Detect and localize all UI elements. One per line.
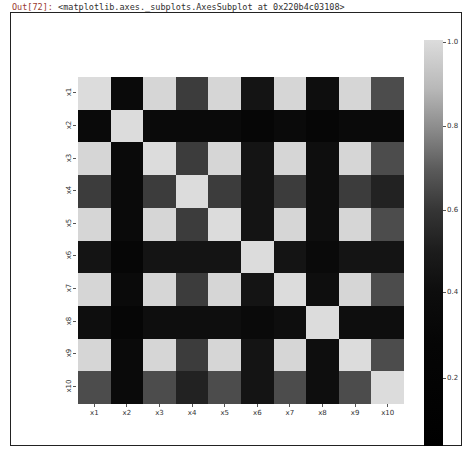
- x-tick-text: x4: [188, 409, 197, 417]
- heatmap-cell: [208, 371, 241, 404]
- y-tick-text: x9: [65, 344, 73, 362]
- heatmap-cell: [339, 371, 372, 404]
- heatmap-cell: [111, 110, 144, 143]
- x-tick-mark: [126, 404, 127, 407]
- heatmap-cell: [78, 110, 111, 143]
- heatmap-cell: [274, 175, 307, 208]
- output-prompt: Out[72]: <matplotlib.axes._subplots.Axes…: [12, 2, 345, 12]
- x-tick-mark: [94, 404, 95, 407]
- heatmap-cell: [208, 175, 241, 208]
- heatmap-cell: [143, 371, 176, 404]
- heatmap-cell: [241, 339, 274, 372]
- heatmap-cell: [78, 371, 111, 404]
- x-tick-label: x7: [274, 404, 306, 417]
- heatmap-cell: [78, 273, 111, 306]
- x-tick-label: x4: [176, 404, 208, 417]
- y-tick-text: x1: [65, 83, 73, 101]
- y-tick-label: x7: [60, 284, 78, 294]
- x-tick-mark: [322, 404, 323, 407]
- heatmap-cell: [176, 306, 209, 339]
- heatmap-cell: [208, 208, 241, 241]
- colorbar-tick-label: 0.6: [443, 206, 458, 214]
- x-tick-text: x6: [253, 409, 262, 417]
- heatmap-cell: [241, 175, 274, 208]
- y-tick-text: x5: [65, 214, 73, 232]
- y-tick-mark: [73, 288, 76, 289]
- heatmap-cell: [274, 208, 307, 241]
- heatmap-cell: [78, 175, 111, 208]
- y-tick-label: x6: [60, 251, 78, 261]
- x-tick-label: x5: [209, 404, 241, 417]
- heatmap-cell: [371, 208, 404, 241]
- heatmap-cell: [208, 77, 241, 110]
- heatmap-cell: [339, 142, 372, 175]
- heatmap-cell: [306, 306, 339, 339]
- heatmap-cell: [176, 241, 209, 274]
- heatmap-cell: [339, 208, 372, 241]
- heatmap-cell: [274, 371, 307, 404]
- x-tick-mark: [387, 404, 388, 407]
- y-tick-label: x3: [60, 154, 78, 164]
- y-tick-text: x3: [65, 149, 73, 167]
- heatmap-cell: [176, 175, 209, 208]
- heatmap-cell: [241, 241, 274, 274]
- heatmap-cell: [371, 241, 404, 274]
- y-tick-mark: [73, 255, 76, 256]
- x-tick-label: x10: [372, 404, 404, 417]
- heatmap-cell: [143, 110, 176, 143]
- y-tick-mark: [73, 92, 76, 93]
- heatmap-cell: [274, 273, 307, 306]
- y-tick-text: x4: [65, 181, 73, 199]
- heatmap-cell: [241, 77, 274, 110]
- heatmap-cell: [78, 208, 111, 241]
- x-tick-text: x3: [155, 409, 164, 417]
- x-tick-text: x9: [351, 409, 360, 417]
- x-tick-mark: [224, 404, 225, 407]
- y-tick-mark: [73, 386, 76, 387]
- heatmap-cell: [111, 142, 144, 175]
- y-tick-label: x9: [60, 349, 78, 359]
- x-tick-text: x5: [220, 409, 229, 417]
- heatmap-cell: [371, 175, 404, 208]
- y-tick-label: x1: [60, 88, 78, 98]
- y-tick-mark: [73, 125, 76, 126]
- colorbar-tick-label: 1.0: [443, 38, 458, 46]
- heatmap-cell: [143, 142, 176, 175]
- heatmap-cell: [306, 371, 339, 404]
- heatmap-cell: [208, 110, 241, 143]
- x-tick-mark: [355, 404, 356, 407]
- heatmap-cell: [371, 142, 404, 175]
- heatmap-cell: [111, 208, 144, 241]
- heatmap-cell: [241, 208, 274, 241]
- output-prompt-label: Out[72]:: [12, 2, 53, 12]
- colorbar-tick-label: 0.2: [443, 374, 458, 382]
- x-tick-text: x2: [123, 409, 132, 417]
- heatmap-cell: [78, 339, 111, 372]
- heatmap-cell: [241, 273, 274, 306]
- heatmap-cell: [143, 306, 176, 339]
- heatmap-cell: [371, 306, 404, 339]
- x-tick-mark: [289, 404, 290, 407]
- heatmap-cell: [241, 306, 274, 339]
- y-tick-label: x4: [60, 186, 78, 196]
- heatmap-cell: [371, 339, 404, 372]
- heatmap-cell: [306, 110, 339, 143]
- heatmap-cell: [339, 241, 372, 274]
- heatmap-cell: [143, 77, 176, 110]
- y-tick-mark: [73, 321, 76, 322]
- colorbar: [424, 40, 443, 446]
- x-tick-label: x2: [111, 404, 143, 417]
- heatmap-cell: [143, 175, 176, 208]
- heatmap-cell: [143, 339, 176, 372]
- heatmap-cell: [111, 175, 144, 208]
- heatmap-cell: [241, 142, 274, 175]
- output-repr: <matplotlib.axes._subplots.AxesSubplot a…: [58, 2, 345, 12]
- heatmap-cell: [306, 208, 339, 241]
- heatmap-cell: [371, 110, 404, 143]
- heatmap-cell: [78, 77, 111, 110]
- heatmap-cell: [111, 339, 144, 372]
- heatmap-cell: [176, 339, 209, 372]
- heatmap-cell: [176, 142, 209, 175]
- heatmap-cell: [111, 306, 144, 339]
- heatmap-cell: [339, 273, 372, 306]
